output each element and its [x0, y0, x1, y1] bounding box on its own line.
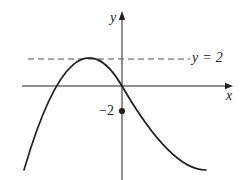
- y-axis-arrow-icon: [119, 11, 125, 20]
- y-intercept-label: −2: [99, 104, 114, 118]
- asymptote-label: y = 2: [192, 51, 223, 65]
- x-axis-label: x: [226, 89, 232, 103]
- parabola-curve: [24, 58, 206, 170]
- graph-canvas: [0, 0, 241, 180]
- intercept-point-marker: [119, 108, 125, 114]
- y-axis-label: y: [110, 11, 116, 25]
- graph-figure: y x y = 2 −2: [0, 0, 241, 180]
